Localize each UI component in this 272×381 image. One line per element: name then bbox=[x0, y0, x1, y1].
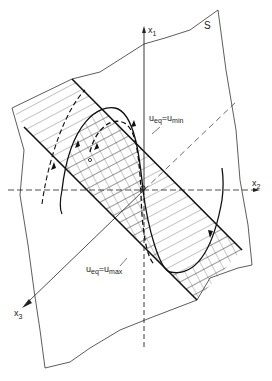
trajectory-arrow-icon bbox=[131, 120, 136, 127]
axis-label-x3: x3 bbox=[14, 308, 23, 320]
trajectory-arrow-icon bbox=[51, 162, 56, 170]
trajectory-solid-left bbox=[61, 190, 63, 214]
axis-label-x1: x1 bbox=[148, 25, 157, 37]
arrow-down-left-icon bbox=[22, 299, 32, 308]
arrow-up-icon bbox=[142, 26, 146, 33]
plane-label: S bbox=[204, 20, 211, 31]
sliding-surface-diagram: S x1 x2 x3 ueq=umin ueq=umax bbox=[0, 0, 272, 381]
label-ueq-umax: ueq=umax bbox=[86, 264, 123, 276]
label-ueq-umin: ueq=umin bbox=[149, 113, 183, 125]
